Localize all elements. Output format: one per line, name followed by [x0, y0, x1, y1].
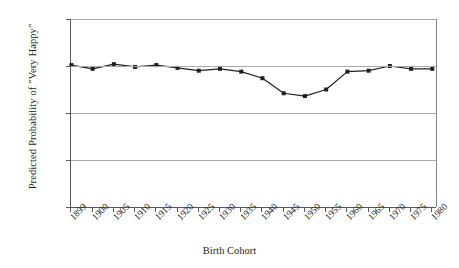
data-point-1925 — [197, 69, 201, 73]
data-point-1965 — [367, 69, 371, 73]
chart-figure: Predicted Probability of "Very Happy" 0.… — [0, 0, 459, 268]
x-axis-title: Birth Cohort — [0, 245, 459, 256]
data-point-1950 — [303, 94, 307, 98]
data-point-1955 — [324, 88, 328, 92]
data-point-1975 — [409, 67, 413, 71]
y-axis-title: Predicted Probability of "Very Happy" — [27, 12, 38, 202]
data-point-markers — [69, 62, 434, 98]
y-tick-0.35 — [66, 66, 71, 67]
y-tick-0.25 — [66, 160, 71, 161]
data-point-1960 — [345, 70, 349, 74]
data-point-1940 — [260, 76, 264, 80]
data-point-1900 — [91, 67, 95, 71]
gridline-0.25 — [71, 160, 436, 161]
data-point-1945 — [282, 91, 286, 95]
data-point-1980 — [430, 67, 434, 71]
line-path — [71, 64, 432, 96]
y-tick-0.40 — [66, 19, 71, 20]
data-point-1935 — [239, 70, 243, 74]
data-point-1930 — [218, 67, 222, 71]
y-tick-0.30 — [66, 113, 71, 114]
gridline-0.30 — [71, 113, 436, 114]
gridline-0.40 — [71, 19, 436, 20]
plot-area — [70, 19, 437, 207]
gridline-0.35 — [71, 66, 436, 67]
